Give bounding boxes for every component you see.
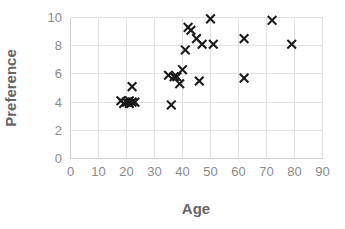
y-tick-label: 10 bbox=[48, 10, 62, 25]
x-tick-label: 30 bbox=[147, 164, 161, 179]
y-tick-label: 2 bbox=[55, 123, 62, 138]
x-tick-label: 0 bbox=[67, 164, 74, 179]
x-tick-label: 50 bbox=[203, 164, 217, 179]
data-point-marker bbox=[198, 40, 207, 49]
scatter-chart: 0102030405060708090 0246810 Age Preferen… bbox=[0, 0, 345, 229]
data-points bbox=[117, 15, 296, 110]
x-tick-label: 80 bbox=[287, 164, 301, 179]
x-axis-title: Age bbox=[182, 200, 210, 217]
data-point-marker bbox=[128, 82, 137, 91]
x-tick-label: 90 bbox=[315, 164, 329, 179]
x-axis-tick-labels: 0102030405060708090 bbox=[67, 164, 330, 179]
y-tick-label: 8 bbox=[55, 38, 62, 53]
data-point-marker bbox=[240, 34, 249, 43]
data-point-marker bbox=[240, 74, 249, 83]
x-tick-label: 10 bbox=[91, 164, 105, 179]
chart-canvas: 0102030405060708090 0246810 Age Preferen… bbox=[0, 0, 345, 229]
x-tick-label: 70 bbox=[259, 164, 273, 179]
x-tick-label: 40 bbox=[175, 164, 189, 179]
y-tick-label: 6 bbox=[55, 66, 62, 81]
y-axis-title: Preference bbox=[2, 49, 19, 127]
data-point-marker bbox=[195, 77, 204, 86]
y-tick-label: 0 bbox=[55, 151, 62, 166]
x-tick-label: 60 bbox=[231, 164, 245, 179]
y-axis-tick-labels: 0246810 bbox=[48, 10, 62, 166]
data-point-marker bbox=[187, 26, 196, 35]
y-tick-label: 4 bbox=[55, 95, 62, 110]
x-tick-label: 20 bbox=[119, 164, 133, 179]
